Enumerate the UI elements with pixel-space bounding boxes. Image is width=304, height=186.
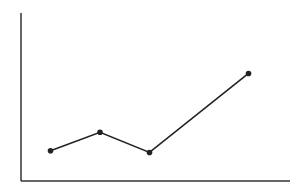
data-point-marker: [97, 129, 103, 135]
data-point-marker: [246, 71, 252, 77]
axes: [21, 13, 290, 181]
line-chart: [0, 0, 304, 186]
data-markers: [48, 71, 252, 156]
data-point-marker: [147, 150, 153, 156]
data-line: [51, 73, 249, 152]
data-point-marker: [48, 148, 54, 154]
